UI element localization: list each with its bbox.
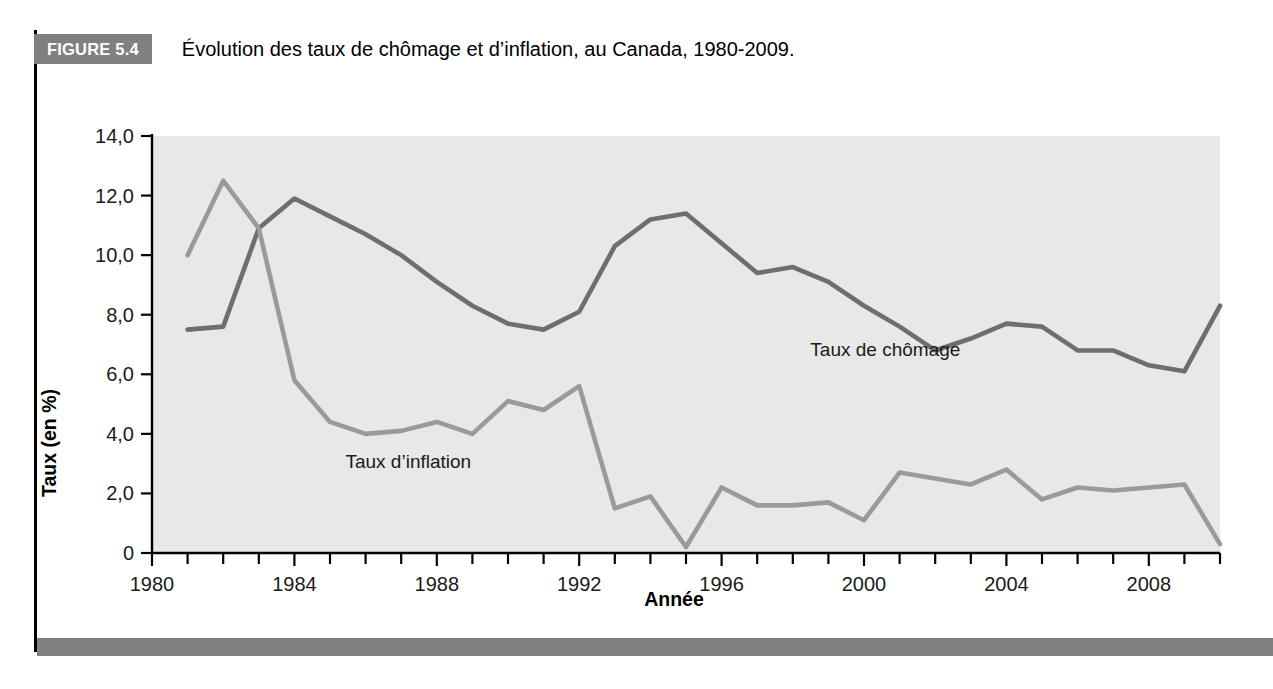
x-tick-label: 1988 — [415, 573, 460, 595]
x-tick-label: 2004 — [984, 573, 1029, 595]
y-tick-label: 14,0 — [95, 125, 134, 147]
y-tick-label: 10,0 — [95, 244, 134, 266]
figure-container: FIGURE 5.4 Évolution des taux de chômage… — [0, 0, 1273, 689]
x-tick-label: 1992 — [557, 573, 602, 595]
figure-bottom-bar — [37, 638, 1273, 656]
x-tick-label: 2008 — [1127, 573, 1172, 595]
y-tick-label: 0 — [123, 542, 134, 564]
y-tick-label: 8,0 — [106, 304, 134, 326]
x-axis-title: Année — [644, 588, 704, 610]
y-axis-title: Taux (en %) — [38, 389, 60, 497]
y-tick-label: 6,0 — [106, 363, 134, 385]
chart-area: 02,04,06,08,010,012,014,0 19801984198819… — [34, 98, 1224, 618]
y-tick-label: 2,0 — [106, 482, 134, 504]
y-tick-label: 4,0 — [106, 423, 134, 445]
figure-number-badge: FIGURE 5.4 — [34, 34, 152, 65]
series-label: Taux de chômage — [810, 339, 960, 360]
figure-header: FIGURE 5.4 Évolution des taux de chômage… — [34, 32, 795, 66]
y-tick-label: 12,0 — [95, 185, 134, 207]
figure-title: Évolution des taux de chômage et d’infla… — [182, 39, 795, 59]
series-label: Taux d’inflation — [345, 451, 471, 472]
x-tick-label: 1980 — [130, 573, 175, 595]
x-tick-label: 1984 — [272, 573, 317, 595]
y-axis-ticks: 02,04,06,08,010,012,014,0 — [95, 125, 152, 564]
x-tick-label: 2000 — [842, 573, 887, 595]
plot-background — [152, 136, 1220, 553]
x-tick-label: 1996 — [699, 573, 744, 595]
line-chart: 02,04,06,08,010,012,014,0 19801984198819… — [34, 98, 1224, 618]
